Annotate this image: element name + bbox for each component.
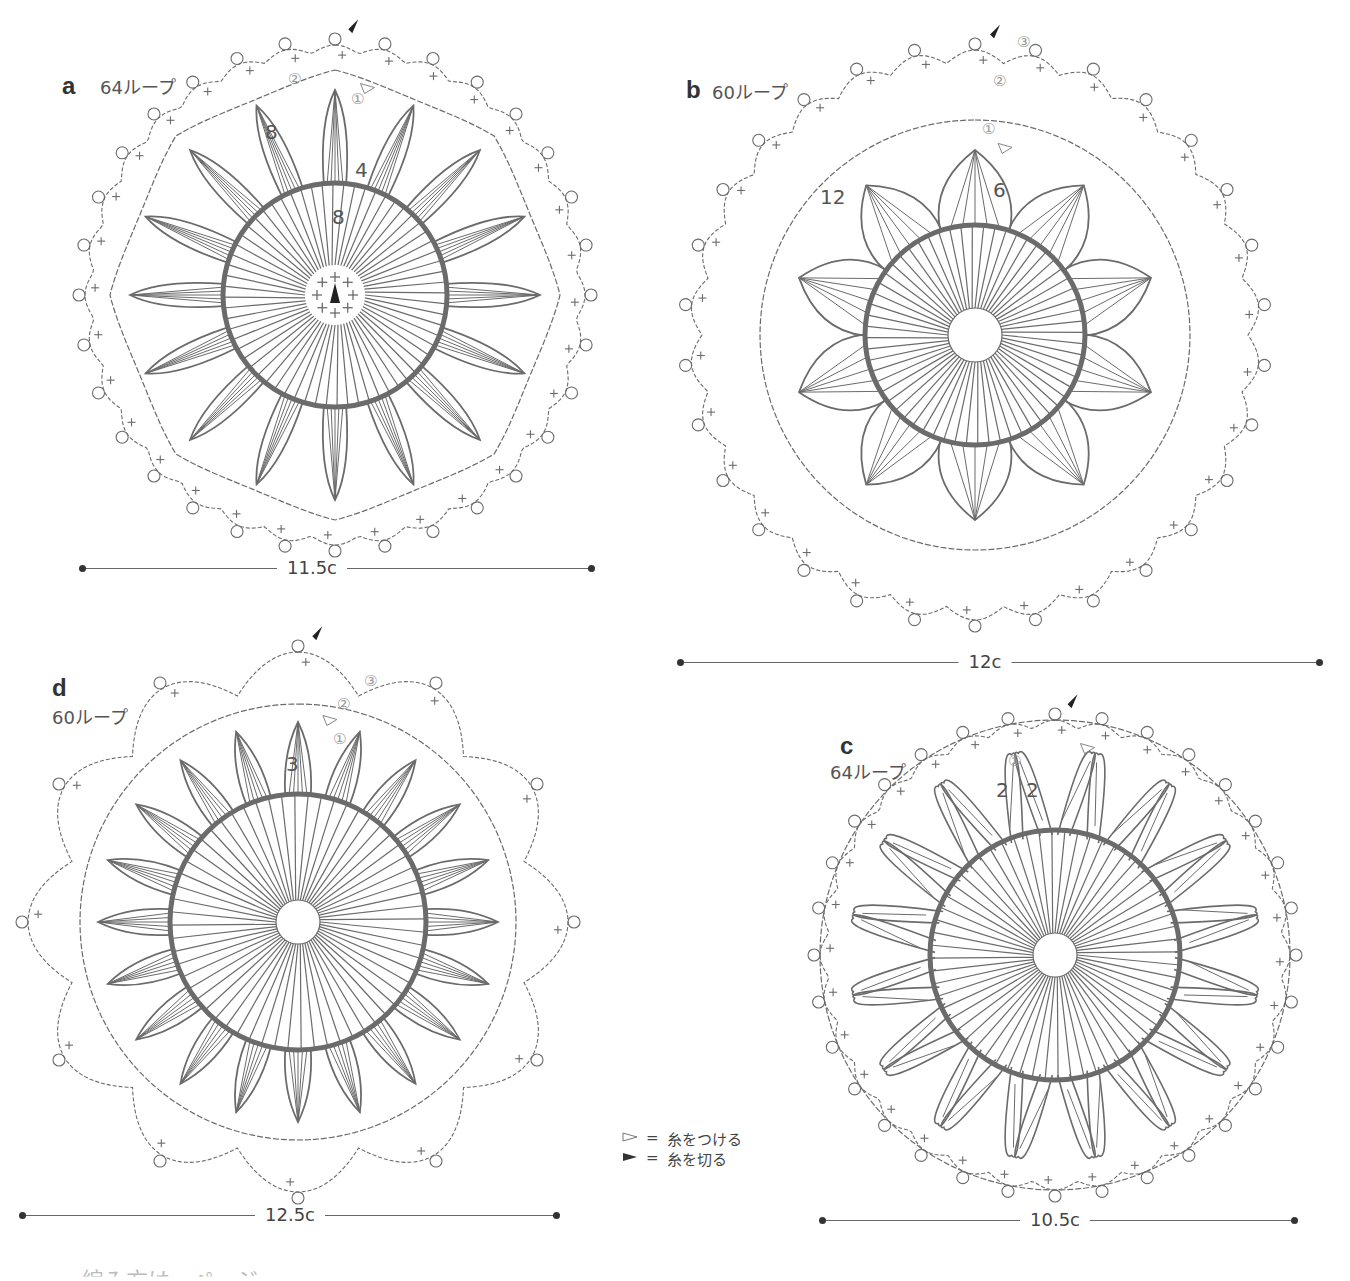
round-number-marker: ① bbox=[982, 120, 995, 138]
legend-equals: = bbox=[646, 1129, 659, 1147]
motif-a-loop-count: 64ループ bbox=[100, 73, 176, 99]
round-number-marker: ③ bbox=[364, 672, 377, 690]
legend: = 糸をつける = 糸を切る bbox=[622, 1128, 742, 1168]
motif-c-dimension: 10.5c bbox=[822, 1210, 1295, 1230]
legend-text-attach-yarn: 糸をつける bbox=[667, 1128, 742, 1149]
stitch-count-label: 6 bbox=[993, 178, 1006, 202]
motif-a-dimension: 11.5c bbox=[82, 558, 592, 578]
stitch-count-label: 2 bbox=[996, 778, 1009, 802]
motif-b-chart bbox=[680, 24, 1271, 632]
round-number-marker: ① bbox=[351, 90, 364, 108]
open-triangle-icon bbox=[622, 1129, 642, 1147]
attach-yarn-marker bbox=[323, 715, 337, 725]
cut-yarn-marker bbox=[1068, 694, 1078, 708]
motif-b-loop-count: 60ループ bbox=[712, 78, 788, 104]
dimension-endpoint bbox=[819, 1217, 826, 1224]
legend-row-cut-yarn: = 糸を切る bbox=[622, 1148, 742, 1168]
dimension-endpoint bbox=[588, 565, 595, 572]
dimension-label: 11.5c bbox=[277, 558, 347, 578]
dimension-endpoint bbox=[79, 565, 86, 572]
stitch-count-label: 8 bbox=[265, 120, 278, 144]
legend-row-attach-yarn: = 糸をつける bbox=[622, 1128, 742, 1148]
dimension-label: 12c bbox=[959, 652, 1012, 672]
motif-d-letter: d bbox=[52, 674, 67, 702]
dimension-endpoint bbox=[553, 1212, 560, 1219]
dimension-endpoint bbox=[19, 1212, 26, 1219]
motif-d-loop-count: 60ループ bbox=[52, 703, 128, 729]
round-number-marker: ① bbox=[333, 730, 346, 748]
dimension-label: 12.5c bbox=[255, 1205, 325, 1225]
stitch-count-label: 2 bbox=[1026, 778, 1039, 802]
filled-triangle-icon bbox=[622, 1149, 642, 1167]
crochet-chart-page bbox=[0, 0, 1350, 1281]
cut-yarn-marker bbox=[330, 283, 340, 303]
cut-yarn-marker bbox=[312, 626, 322, 640]
cut-yarn-marker bbox=[990, 24, 1000, 38]
center-stitches bbox=[312, 272, 358, 318]
round-number-marker: ② bbox=[337, 695, 350, 713]
dimension-endpoint bbox=[1316, 659, 1323, 666]
legend-text-cut-yarn: 糸を切る bbox=[667, 1148, 727, 1169]
motif-b-dimension: 12c bbox=[680, 652, 1320, 672]
dimension-endpoint bbox=[1291, 1217, 1298, 1224]
stitch-count-label: 3 bbox=[286, 752, 299, 776]
stitch-count-label: 12 bbox=[820, 185, 845, 209]
motif-d-dimension: 12.5c bbox=[22, 1205, 557, 1225]
round-number-marker: ② bbox=[288, 70, 301, 88]
motif-b-letter: b bbox=[686, 76, 701, 104]
dimension-label: 10.5c bbox=[1020, 1210, 1090, 1230]
dimension-endpoint bbox=[677, 659, 684, 666]
round-number-marker: ① bbox=[1008, 752, 1021, 770]
motif-c-letter: c bbox=[840, 732, 853, 760]
stitch-count-label: 4 bbox=[355, 158, 368, 182]
stitch-count-label: 8 bbox=[332, 205, 345, 229]
motif-c-loop-count: 64ループ bbox=[830, 758, 906, 784]
round-number-marker: ② bbox=[993, 72, 1006, 90]
motif-a-letter: a bbox=[62, 72, 75, 100]
motif-a-chart bbox=[73, 19, 597, 557]
cut-yarn-marker bbox=[348, 19, 358, 33]
round-number-marker: ③ bbox=[1017, 33, 1030, 51]
legend-equals: = bbox=[646, 1149, 659, 1167]
motif-drawings bbox=[0, 0, 1350, 1281]
attach-yarn-marker bbox=[998, 143, 1012, 153]
